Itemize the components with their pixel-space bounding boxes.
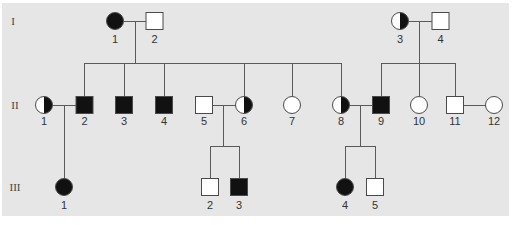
individual-II-3: 3 [116,97,133,128]
affected-male-icon [76,97,93,114]
svg-text:11: 11 [449,115,460,127]
individual-II-11: 11 [447,97,464,128]
individual-II-9: 9 [373,97,390,128]
svg-text:1: 1 [61,199,67,211]
svg-text:6: 6 [241,115,247,127]
unaffected-female-icon [411,97,428,114]
unaffected-female-icon [486,97,503,114]
individual-III-1: 1 [56,179,73,212]
affected-female-icon [337,179,354,196]
generation-label-III: III [10,181,21,193]
svg-text:2: 2 [207,199,213,211]
svg-text:3: 3 [397,33,403,45]
svg-text:5: 5 [372,199,378,211]
svg-text:1: 1 [112,33,118,45]
individual-II-12: 12 [486,97,503,128]
individual-I-3: 3 [392,13,409,46]
pedigree-chart: I II III [0,0,512,225]
svg-text:2: 2 [81,115,87,127]
generation-label-I: I [11,15,15,27]
svg-text:7: 7 [289,115,295,127]
individual-II-4: 4 [156,97,173,128]
individual-II-2: 2 [76,97,93,128]
unaffected-male-icon [202,179,219,196]
svg-text:2: 2 [151,33,157,45]
individual-III-2: 2 [202,179,219,212]
svg-text:3: 3 [236,199,242,211]
svg-text:10: 10 [413,115,425,127]
unaffected-male-icon [432,13,449,30]
generation-label-II: II [11,99,19,111]
affected-male-icon [231,179,248,196]
unaffected-male-icon [447,97,464,114]
individual-III-5: 5 [367,179,384,212]
svg-text:4: 4 [437,33,443,45]
individual-III-4: 4 [337,179,354,212]
svg-text:4: 4 [161,115,167,127]
individual-II-7: 7 [284,97,301,128]
individual-II-1: 1 [36,97,53,128]
unaffected-male-icon [367,179,384,196]
svg-text:3: 3 [121,115,127,127]
individual-II-8: 8 [333,97,350,128]
individual-I-1: 1 [107,13,124,46]
individual-I-2: 2 [146,13,163,46]
svg-text:8: 8 [338,115,344,127]
individual-II-5: 5 [196,97,213,128]
svg-text:12: 12 [488,115,500,127]
affected-male-icon [156,97,173,114]
affected-male-icon [116,97,133,114]
individual-I-4: 4 [432,13,449,46]
affected-female-icon [107,13,124,30]
individual-II-6: 6 [236,97,253,128]
unaffected-male-icon [146,13,163,30]
unaffected-female-icon [284,97,301,114]
svg-text:9: 9 [378,115,384,127]
unaffected-male-icon [196,97,213,114]
individual-II-10: 10 [411,97,428,128]
individual-III-3: 3 [231,179,248,212]
affected-female-icon [56,179,73,196]
affected-male-icon [373,97,390,114]
svg-text:5: 5 [201,115,207,127]
svg-text:1: 1 [41,115,47,127]
svg-text:4: 4 [342,199,348,211]
